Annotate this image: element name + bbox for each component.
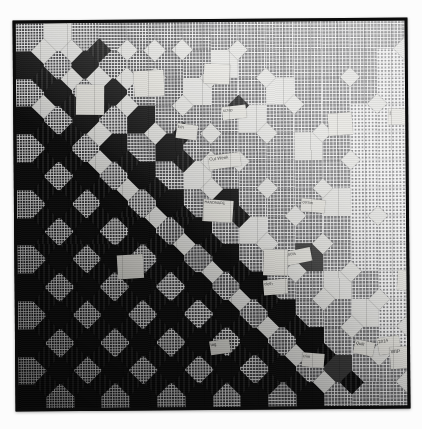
fabric-scrap [117, 254, 144, 280]
fabric-scrap: bin [175, 123, 198, 141]
fabric-scrap-text: HANDMADE [203, 199, 233, 208]
fabric-scrap-text: scrap [222, 105, 247, 116]
fabric-scrap: cloth [263, 279, 288, 296]
fabric-scrap: HANDMADE [202, 199, 233, 223]
fabric-scrap: scrap [222, 105, 247, 121]
screenshot-canvas: Cut WeekHANDMADE100%cotton2014QuiltWIPIs… [0, 0, 422, 429]
quilt-patch [266, 21, 295, 50]
fabric-scrap-text: tag [209, 339, 230, 350]
quilt-patch [379, 243, 408, 272]
quilt-patch [378, 159, 407, 188]
fabric-scrap [133, 70, 164, 97]
fabric-scrap: WIP [389, 346, 407, 370]
fabric-scrap [76, 85, 104, 115]
quilt-patch [294, 49, 323, 78]
quilt-patch [293, 21, 322, 50]
fabric-scrap [397, 270, 408, 291]
fabric-scrap-text: cotton [301, 198, 326, 208]
fabric-scrap-text: bin [176, 123, 198, 134]
quilt-artwork: Cut WeekHANDMADE100%cotton2014QuiltWIPIs… [12, 17, 410, 411]
quilt-patch [321, 21, 350, 50]
quilt-patch [378, 132, 407, 161]
fabric-scrap: trim [302, 352, 325, 368]
quilt-patch [349, 21, 378, 50]
fabric-scrap [263, 249, 288, 276]
fabric-scrap: I [388, 108, 407, 125]
fabric-scrap-text: trim [302, 352, 325, 362]
fabric-scrap: tag [209, 339, 231, 356]
fabric-scrap-text: WIP [389, 346, 407, 357]
fabric-scrap [203, 63, 230, 84]
fabric-scrap-text: I [388, 108, 407, 119]
fabric-scrap-text: cloth [263, 279, 288, 289]
quilt-patch-grid: Cut WeekHANDMADE100%cotton2014QuiltWIPIs… [15, 20, 407, 408]
fabric-scrap: cotton [300, 198, 325, 213]
fabric-scrap [327, 112, 353, 136]
